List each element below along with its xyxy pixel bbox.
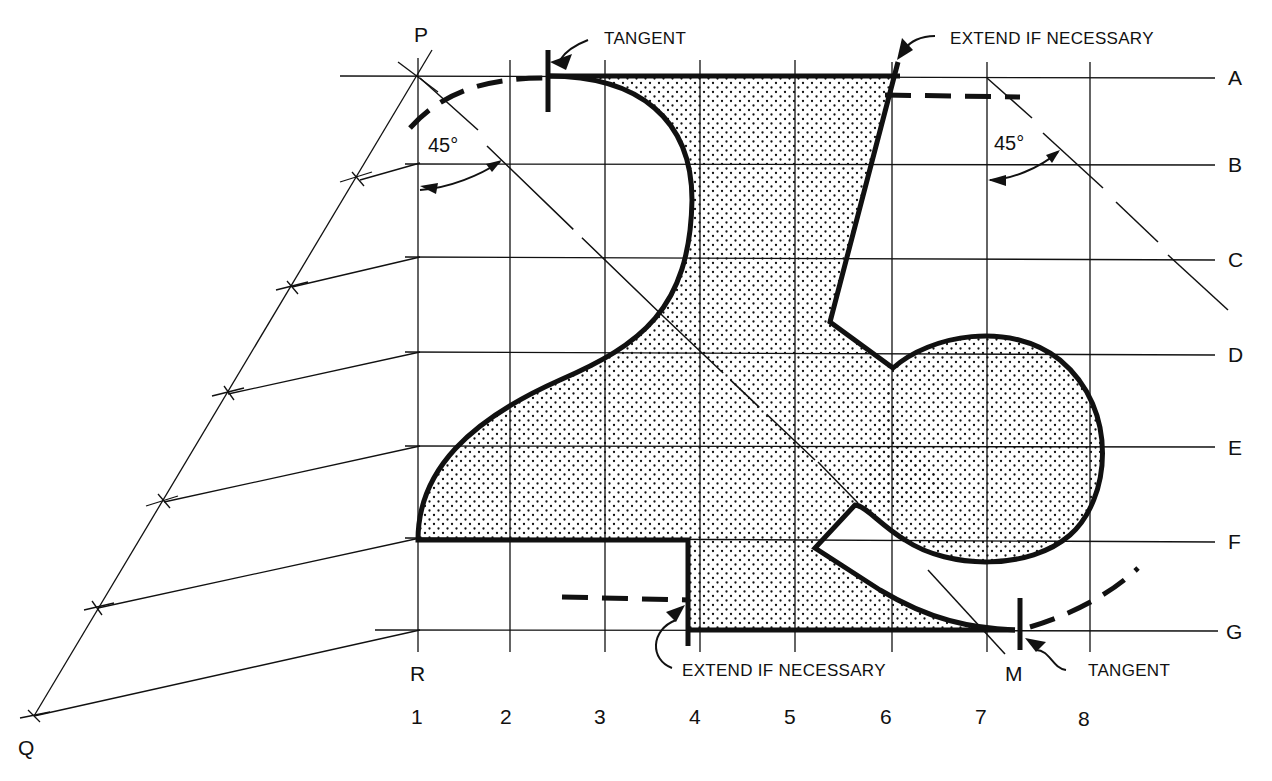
row-label-d: D xyxy=(1228,343,1243,366)
col-label-8: 8 xyxy=(1078,707,1090,730)
row-label-a: A xyxy=(1228,66,1242,89)
tangent-bottom-note: TANGENT xyxy=(1088,661,1170,680)
row-labels: A B C D E F G xyxy=(1226,66,1243,643)
col-label-5: 5 xyxy=(784,705,796,728)
angle-right-label: 45° xyxy=(994,132,1024,154)
col-label-3: 3 xyxy=(594,705,606,728)
col-label-4: 4 xyxy=(689,705,701,728)
grid-construction-drawing: P Q R M TANGENT EXTEND IF NECESSARY EXTE… xyxy=(0,0,1272,781)
row-label-g: G xyxy=(1226,620,1242,643)
row-label-b: B xyxy=(1228,153,1242,176)
point-q-label: Q xyxy=(18,736,34,759)
col-label-7: 7 xyxy=(975,705,987,728)
col-label-2: 2 xyxy=(500,705,512,728)
column-labels: 1 2 3 4 5 6 7 8 xyxy=(411,705,1090,730)
point-r-label: R xyxy=(410,662,425,685)
point-p-label: P xyxy=(414,23,428,46)
point-m-label: M xyxy=(1005,662,1023,685)
extend-top-note: EXTEND IF NECESSARY xyxy=(950,29,1154,48)
row-label-f: F xyxy=(1228,530,1241,553)
extend-bottom-note: EXTEND IF NECESSARY xyxy=(682,661,886,680)
angle-left-label: 45° xyxy=(428,134,458,156)
col-label-1: 1 xyxy=(411,705,423,728)
row-label-c: C xyxy=(1228,248,1243,271)
tangent-top-note: TANGENT xyxy=(604,29,686,48)
col-label-6: 6 xyxy=(880,705,892,728)
row-label-e: E xyxy=(1228,436,1242,459)
